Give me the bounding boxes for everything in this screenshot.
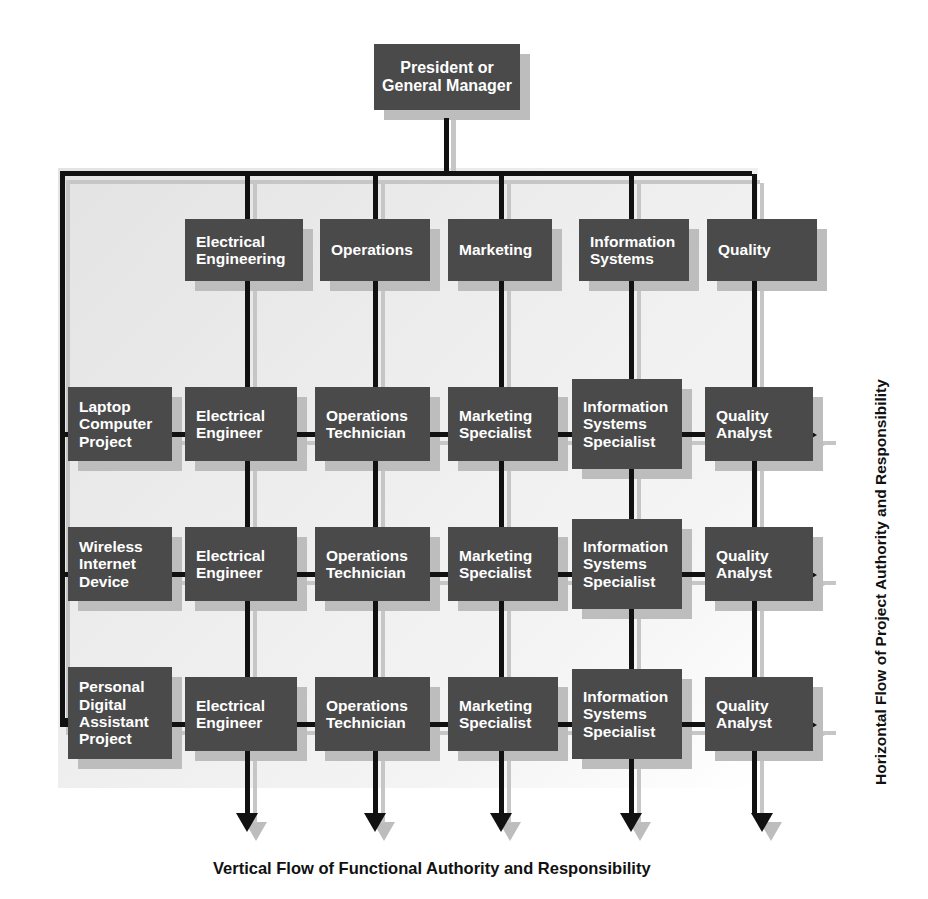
box-function-marketing[interactable]: Marketing xyxy=(448,219,552,281)
box-project-laptop-computer[interactable]: Laptop Computer Project xyxy=(68,387,172,461)
box-role-information-systems-specialist-r3[interactable]: Information Systems Specialist xyxy=(572,669,682,759)
box-line: Engineer xyxy=(196,714,262,731)
box-role-operations-technician-r2[interactable]: Operations Technician xyxy=(315,527,430,601)
box-line: Specialist xyxy=(459,714,531,731)
box-line: Specialist xyxy=(459,424,531,441)
arrow-down-icon xyxy=(751,813,773,832)
box-line: Operations xyxy=(326,547,408,564)
box-line: Systems xyxy=(583,705,647,722)
box-function-quality[interactable]: Quality xyxy=(707,219,817,281)
box-line: Quality xyxy=(718,241,771,258)
box-line: Analyst xyxy=(716,714,772,731)
box-role-quality-analyst-r3[interactable]: Quality Analyst xyxy=(705,677,813,751)
arrow-down-icon xyxy=(236,813,258,832)
box-role-marketing-specialist-r3[interactable]: Marketing Specialist xyxy=(448,677,558,751)
box-president[interactable]: President or General Manager xyxy=(374,44,520,110)
box-line: Specialist xyxy=(459,564,531,581)
box-line: Electrical xyxy=(196,547,265,564)
box-line: Engineer xyxy=(196,564,262,581)
box-line: Information xyxy=(583,688,668,705)
box-line: Operations xyxy=(331,241,413,258)
box-line: Information xyxy=(583,398,668,415)
box-role-marketing-specialist-r2[interactable]: Marketing Specialist xyxy=(448,527,558,601)
box-line: Marketing xyxy=(459,697,532,714)
box-function-information-systems[interactable]: Information Systems xyxy=(579,219,689,281)
connector-gray xyxy=(66,180,760,184)
box-line: Information xyxy=(590,233,675,250)
box-line: Specialist xyxy=(583,723,655,740)
box-line: Project xyxy=(79,730,132,747)
box-line: Operations xyxy=(326,697,408,714)
box-role-operations-technician-r1[interactable]: Operations Technician xyxy=(315,387,430,461)
box-line: Analyst xyxy=(716,564,772,581)
box-line: Digital xyxy=(79,696,126,713)
box-line: Quality xyxy=(716,547,769,564)
box-line: Analyst xyxy=(716,424,772,441)
box-line: Assistant xyxy=(79,713,149,730)
box-line: Technician xyxy=(326,714,406,731)
box-line: Technician xyxy=(326,564,406,581)
box-line: Electrical xyxy=(196,697,265,714)
connector-functional-bus xyxy=(60,171,752,176)
arrow-down-icon xyxy=(364,813,386,832)
box-line: General Manager xyxy=(382,77,512,95)
box-role-electrical-engineer-r3[interactable]: Electrical Engineer xyxy=(185,677,297,751)
box-line: Specialist xyxy=(583,433,655,450)
box-role-information-systems-specialist-r1[interactable]: Information Systems Specialist xyxy=(572,379,682,469)
box-line: Information xyxy=(583,538,668,555)
caption-vertical-flow: Vertical Flow of Functional Authority an… xyxy=(213,859,651,878)
box-line: Engineering xyxy=(196,250,286,267)
arrow-down-icon xyxy=(490,813,512,832)
box-line: Engineer xyxy=(196,424,262,441)
box-line: Systems xyxy=(590,250,654,267)
box-project-wireless-internet-device[interactable]: Wireless Internet Device xyxy=(68,527,172,601)
box-function-electrical-engineering[interactable]: Electrical Engineering xyxy=(185,219,303,281)
box-line: Specialist xyxy=(583,573,655,590)
box-line: Marketing xyxy=(459,407,532,424)
box-role-quality-analyst-r2[interactable]: Quality Analyst xyxy=(705,527,813,601)
box-line: Operations xyxy=(326,407,408,424)
caption-horizontal-flow: Horizontal Flow of Project Authority and… xyxy=(872,379,890,785)
box-line: Device xyxy=(79,573,129,590)
box-line: Systems xyxy=(583,415,647,432)
box-role-operations-technician-r3[interactable]: Operations Technician xyxy=(315,677,430,751)
box-line: Systems xyxy=(583,555,647,572)
box-line: Quality xyxy=(716,407,769,424)
arrow-down-icon xyxy=(620,813,642,832)
box-line: Computer xyxy=(79,415,152,432)
box-function-operations[interactable]: Operations xyxy=(320,219,430,281)
box-line: Electrical xyxy=(196,407,265,424)
connector-president-stem xyxy=(444,118,449,173)
box-role-information-systems-specialist-r2[interactable]: Information Systems Specialist xyxy=(572,519,682,609)
box-role-electrical-engineer-r1[interactable]: Electrical Engineer xyxy=(185,387,297,461)
box-line: Project xyxy=(79,433,132,450)
box-role-marketing-specialist-r1[interactable]: Marketing Specialist xyxy=(448,387,558,461)
box-line: Marketing xyxy=(459,241,532,258)
box-project-personal-digital-assistant[interactable]: Personal Digital Assistant Project xyxy=(68,667,172,759)
box-line: Marketing xyxy=(459,547,532,564)
box-line: President or xyxy=(400,59,493,77)
box-line: Wireless xyxy=(79,538,143,555)
box-role-electrical-engineer-r2[interactable]: Electrical Engineer xyxy=(185,527,297,601)
box-line: Personal xyxy=(79,678,144,695)
connector-gray xyxy=(451,120,456,175)
connector-project-spine xyxy=(60,171,65,723)
matrix-org-chart: President or General Manager Electrical … xyxy=(0,0,928,899)
box-line: Electrical xyxy=(196,233,265,250)
box-role-quality-analyst-r1[interactable]: Quality Analyst xyxy=(705,387,813,461)
box-line: Laptop xyxy=(79,398,131,415)
box-line: Internet xyxy=(79,555,136,572)
box-line: Quality xyxy=(716,697,769,714)
box-line: Technician xyxy=(326,424,406,441)
